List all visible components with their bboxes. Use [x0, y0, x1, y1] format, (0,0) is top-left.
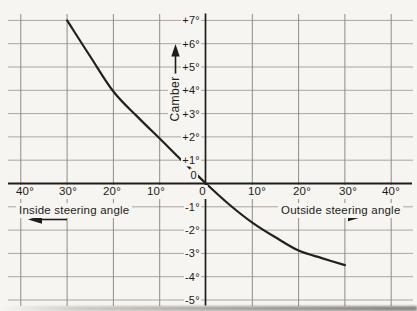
camber-axis-label: Camber — [168, 73, 182, 124]
x-tick-label-inside: 30° — [57, 185, 79, 199]
y-tick-label: -3° — [184, 247, 201, 260]
outside-steering-angle-label: Outside steering angle — [278, 203, 403, 218]
y-tick-label: +4° — [181, 84, 201, 97]
x-tick-label-inside: 40° — [14, 185, 36, 199]
chart-canvas — [0, 0, 417, 311]
y-tick-label: +7° — [181, 14, 201, 27]
x-tick-label-outside: 20° — [291, 185, 313, 199]
grid-lines — [8, 14, 413, 307]
y-tick-label: +6° — [181, 37, 201, 50]
x-tick-label-zero: 0 — [197, 185, 208, 199]
y-tick-label: +3° — [181, 107, 201, 120]
y-tick-label: -5° — [184, 294, 201, 307]
camber-up-arrow-icon — [171, 44, 179, 76]
y-tick-label: -2° — [184, 224, 201, 237]
y-tick-label: +5° — [181, 61, 201, 74]
x-tick-label-outside: 40° — [380, 185, 402, 199]
x-tick-label-inside: 10° — [145, 185, 167, 199]
inside-steering-angle-label: Inside steering angle — [16, 203, 132, 218]
x-tick-label-outside: 10° — [246, 185, 268, 199]
x-tick-label-inside: 20° — [101, 185, 123, 199]
y-tick-label-zero: 0 — [190, 169, 198, 182]
page-scan-shadow — [0, 306, 417, 311]
y-tick-label: +1° — [181, 154, 201, 167]
y-tick-label: -4° — [184, 270, 201, 283]
y-tick-label: +2° — [181, 130, 201, 143]
y-tick-label: -1° — [184, 200, 201, 213]
x-tick-label-outside: 30° — [337, 185, 359, 199]
camber-steering-chart: +7° +6° +5° +4° +3° +2° +1° 0 -1° -2° -3… — [0, 0, 417, 311]
